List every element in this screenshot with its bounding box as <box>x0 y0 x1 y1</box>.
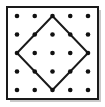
grid-dot <box>15 51 20 56</box>
dot-grid-diamond-figure <box>0 0 105 107</box>
figure-root <box>0 0 105 107</box>
grid-dot <box>32 32 37 37</box>
grid-dot <box>50 69 55 74</box>
grid-dot <box>15 69 20 74</box>
grid-dot <box>86 51 91 56</box>
grid-dot <box>86 88 91 93</box>
grid-dot <box>86 69 91 74</box>
grid-dot <box>68 14 73 19</box>
grid-dot <box>50 51 55 56</box>
grid-dot <box>15 88 20 93</box>
grid-dot <box>32 51 37 56</box>
grid-dot <box>15 32 20 37</box>
grid-dot <box>86 14 91 19</box>
grid-dot <box>32 69 37 74</box>
grid-dot <box>15 14 20 19</box>
grid-dot <box>50 32 55 37</box>
grid-dot <box>50 14 55 19</box>
grid-dot <box>32 88 37 93</box>
grid-dot <box>50 88 55 93</box>
grid-dot <box>68 88 73 93</box>
grid-dot <box>32 14 37 19</box>
grid-dot <box>68 69 73 74</box>
grid-dot <box>68 32 73 37</box>
grid-dot <box>68 51 73 56</box>
grid-dot <box>86 32 91 37</box>
